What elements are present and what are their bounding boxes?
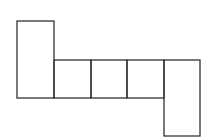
face-right-tall	[164, 60, 200, 136]
box-net-diagram	[0, 0, 207, 140]
face-middle-3	[127, 60, 164, 98]
face-left-tall	[17, 21, 54, 98]
face-middle-2	[91, 60, 127, 98]
face-middle-1	[54, 60, 91, 98]
